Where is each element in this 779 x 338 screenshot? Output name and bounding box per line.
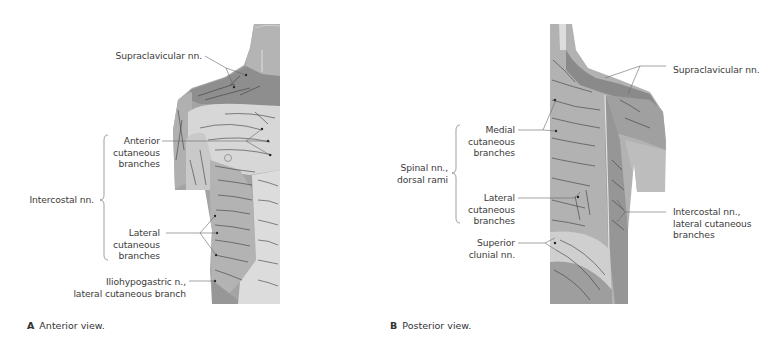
caption-letter: A xyxy=(27,320,34,331)
label-supraclavicular-b: Supraclavicular nn. xyxy=(673,64,760,76)
label-supraclavicular-a: Supraclavicular nn. xyxy=(110,50,202,62)
label-line: cutaneous xyxy=(100,147,160,159)
caption-text: Anterior view. xyxy=(39,320,104,331)
label-intercostal-lateral-b: Intercostal nn., lateral cutaneous branc… xyxy=(673,206,751,241)
caption-text: Posterior view. xyxy=(402,320,471,331)
label-line: dorsal rami xyxy=(390,174,448,186)
label-spinal-dorsal-rami: Spinal nn., dorsal rami xyxy=(390,162,448,185)
caption-b: BPosterior view. xyxy=(390,320,471,331)
label-line: cutaneous xyxy=(460,204,515,216)
label-intercostal-a: Intercostal nn. xyxy=(20,194,94,206)
label-line: Intercostal nn., xyxy=(673,206,751,218)
caption-letter: B xyxy=(390,320,397,331)
label-line: branches xyxy=(673,229,751,241)
label-line: clunial nn. xyxy=(460,249,515,261)
label-iliohypogastric: Iliohypogastric n., lateral cutaneous br… xyxy=(60,276,186,299)
anterior-torso-figure xyxy=(170,20,285,310)
label-superior-clunial: Superior clunial nn. xyxy=(460,237,515,260)
figure-stage: Supraclavicular nn. Anterior cutaneous b… xyxy=(0,0,779,338)
label-medial-cutaneous: Medial cutaneous branches xyxy=(460,124,515,159)
label-line: lateral cutaneous xyxy=(673,218,751,230)
label-line: cutaneous xyxy=(460,136,515,148)
label-line: cutaneous xyxy=(100,239,160,251)
label-line: branches xyxy=(100,250,160,262)
label-line: Spinal nn., xyxy=(390,162,448,174)
posterior-torso-figure xyxy=(545,20,670,310)
caption-a: AAnterior view. xyxy=(27,320,105,331)
label-line: lateral cutaneous branch xyxy=(60,288,186,300)
label-anterior-cutaneous: Anterior cutaneous branches xyxy=(100,135,160,170)
spinal-brace xyxy=(452,125,460,223)
label-line: Lateral xyxy=(100,227,160,239)
label-line: Medial xyxy=(460,124,515,136)
label-line: Anterior xyxy=(100,135,160,147)
label-line: Lateral xyxy=(460,192,515,204)
label-lateral-cutaneous-a: Lateral cutaneous branches xyxy=(100,227,160,262)
label-line: branches xyxy=(460,215,515,227)
label-line: Iliohypogastric n., xyxy=(60,276,186,288)
label-line: branches xyxy=(100,158,160,170)
label-line: Superior xyxy=(460,237,515,249)
label-lateral-cutaneous-b: Lateral cutaneous branches xyxy=(460,192,515,227)
label-line: branches xyxy=(460,147,515,159)
